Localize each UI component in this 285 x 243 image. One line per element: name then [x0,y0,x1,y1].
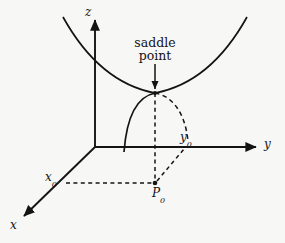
x-axis-label: x [10,219,17,232]
saddle-point-caption: saddle point [120,36,190,62]
saddle-caption-line-2: point [120,49,190,62]
x0-base: x [45,170,52,184]
y-axis-label: y [264,138,271,151]
p0-to-y0-guide [157,149,184,181]
saddle-point-figure: saddle point z y x x0 y0 P0 [0,0,285,243]
y0-subscript: 0 [187,140,192,149]
p0-label: P0 [152,184,165,204]
x0-label: x0 [45,168,57,188]
z-axis-label: z [85,6,91,19]
x0-subscript: 0 [52,180,57,189]
x-axis-line [24,147,95,216]
p0-base: P [152,186,160,200]
downward-parabola-solid-arm [124,93,155,152]
y0-label: y0 [180,128,192,148]
y0-base: y [180,130,187,144]
saddle-point-dot [153,91,157,95]
p0-subscript: 0 [160,196,165,205]
